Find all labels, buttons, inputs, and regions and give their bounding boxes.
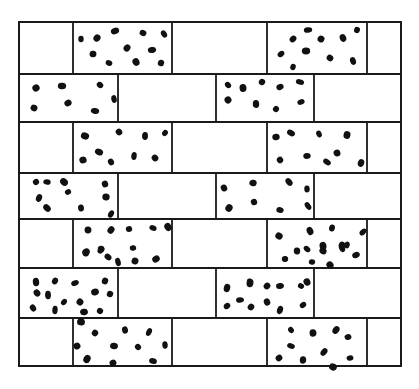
speckle-dot [302, 47, 311, 54]
speckle-dot [151, 254, 161, 264]
speckle-dot [111, 95, 118, 104]
speckle-dot [272, 105, 281, 114]
speckle-dot [101, 277, 109, 285]
speckle-dot [64, 188, 72, 196]
speckle-dot [134, 343, 143, 352]
speckle-dot [107, 209, 115, 219]
speckle-dot [45, 291, 51, 300]
speckle-dot [149, 224, 158, 232]
speckle-dot [275, 155, 284, 164]
speckle-dot [125, 225, 133, 232]
speckle-dot [121, 326, 128, 335]
speckle-dot [89, 51, 96, 58]
speckle-dot [343, 130, 352, 139]
speckle-dot [147, 46, 156, 53]
speckle-dot [250, 198, 258, 206]
speckle-dot [139, 29, 148, 37]
speckle-dot [297, 98, 306, 105]
speckle-dot [29, 303, 38, 312]
speckle-dot [84, 226, 91, 233]
speckle-dot [236, 297, 244, 303]
speckle-dot [299, 301, 308, 309]
speckle-dot [333, 149, 342, 158]
speckle-dot [114, 257, 122, 267]
speckle-dot [59, 177, 70, 188]
speckle-dot [161, 129, 169, 137]
speckle-dot [32, 288, 42, 298]
speckle-dot [224, 81, 233, 90]
speckle-dot [282, 256, 289, 262]
speckle-dot [105, 59, 114, 67]
speckle-dot [351, 251, 361, 260]
speckle-dot [322, 157, 332, 166]
speckle-dot [263, 297, 271, 306]
speckle-dot [42, 203, 52, 213]
speckle-dot [43, 179, 51, 185]
speckle-dot [346, 355, 354, 362]
speckle-dot [52, 306, 58, 315]
speckle-dot [142, 132, 148, 140]
speckle-dot [304, 185, 310, 192]
speckle-dot [162, 341, 168, 349]
speckle-dot [157, 59, 164, 66]
speckle-dot [276, 50, 285, 59]
speckle-dot [106, 290, 114, 298]
speckle-dot [101, 180, 109, 188]
speckle-dot [246, 278, 254, 287]
speckle-dot [102, 193, 110, 201]
speckle-dot [51, 277, 60, 286]
speckle-dot [58, 83, 67, 90]
speckle-dot [286, 128, 296, 137]
speckle-dot [110, 27, 120, 35]
speckle-dot [122, 43, 132, 53]
speckle-dot [300, 356, 307, 364]
speckle-dot [331, 325, 341, 336]
speckle-dot [258, 78, 267, 87]
speckle-dot [316, 34, 325, 43]
speckle-dot [131, 57, 141, 67]
brick-wall-svg [0, 0, 419, 389]
brick-wall-diagram [0, 0, 419, 389]
speckle-dot [114, 127, 123, 136]
speckle-dot [79, 308, 88, 316]
speckle-dot [94, 147, 104, 156]
speckle-dot [294, 247, 301, 254]
speckle-dot [275, 83, 284, 91]
speckle-dot [148, 357, 157, 365]
speckle-dot [78, 36, 83, 42]
speckle-dot [75, 297, 85, 307]
speckle-dot [309, 329, 316, 337]
speckle-dot [145, 327, 153, 337]
speckle-dot [103, 252, 112, 261]
speckle-dot [357, 158, 366, 167]
speckle-dot [339, 33, 348, 43]
speckle-dot [30, 104, 39, 113]
speckle-dot [344, 333, 352, 341]
speckle-dot [150, 153, 159, 162]
speckle-dot [253, 100, 260, 108]
speckle-dots [29, 26, 368, 372]
speckle-dot [328, 224, 335, 232]
speckle-dot [129, 245, 136, 251]
speckle-dot [90, 107, 99, 114]
speckle-dot [284, 177, 294, 187]
speckle-dot [276, 283, 285, 290]
speckle-dot [262, 281, 271, 290]
mortar-lines [19, 22, 401, 366]
speckle-dot [303, 153, 311, 159]
speckle-dot [35, 193, 44, 203]
speckle-dot [160, 29, 169, 39]
speckle-dot [223, 283, 231, 293]
speckle-dot [328, 362, 338, 371]
speckle-dot [79, 156, 88, 164]
speckle-dot [223, 95, 233, 105]
speckle-dot [224, 203, 234, 213]
speckle-dot [110, 342, 119, 349]
speckle-dot [77, 318, 85, 325]
speckle-dot [325, 53, 334, 62]
speckle-dot [308, 259, 315, 265]
speckle-dot [82, 354, 92, 365]
speckle-dot [304, 27, 313, 33]
speckle-dot [90, 288, 100, 297]
speckle-dot [106, 225, 116, 235]
